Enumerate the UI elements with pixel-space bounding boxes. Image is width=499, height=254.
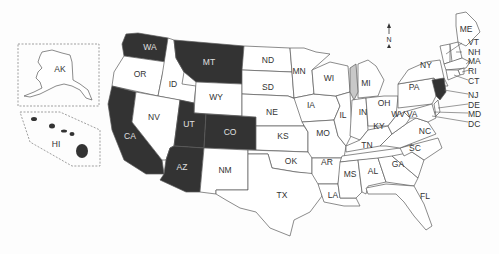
label-RI: RI [468,66,477,76]
compass: N [386,23,391,48]
label-KS: KS [277,131,289,141]
label-OH: OH [378,98,391,108]
label-AZ: AZ [177,162,188,172]
label-DC: DC [468,119,480,129]
callout-labels: VT NH MA RI CT NJ DE MD DC [468,37,481,129]
label-CT: CT [468,76,479,86]
label-SC: SC [409,143,421,153]
label-GA: GA [392,159,405,169]
label-TN: TN [361,140,372,150]
label-CA: CA [124,131,136,141]
label-AR: AR [321,157,333,167]
label-NC: NC [419,126,431,136]
label-MA: MA [468,56,481,66]
label-LA: LA [328,190,339,200]
label-ND: ND [262,55,274,65]
north-label: N [386,36,391,43]
label-MS: MS [344,169,357,179]
label-PA: PA [409,82,420,92]
label-WY: WY [209,92,223,102]
lake-michigan [350,64,358,100]
label-UT: UT [183,119,194,129]
label-NJ: NJ [468,90,478,100]
label-AK: AK [54,64,66,74]
label-IA: IA [307,100,315,110]
label-AL: AL [368,166,379,176]
label-MI: MI [361,78,370,88]
label-IN: IN [359,107,368,117]
label-VA: VA [407,109,418,119]
label-CO: CO [224,127,237,137]
label-WV: WV [391,109,405,119]
label-NV: NV [148,112,160,122]
state-VT[interactable] [440,44,450,64]
label-MT: MT [203,57,215,67]
label-HI: HI [52,139,61,149]
state-IA[interactable] [294,94,340,122]
state-AK[interactable] [24,50,92,100]
label-WI: WI [324,73,334,83]
label-ME: ME [460,24,473,34]
label-WA: WA [143,42,157,52]
label-FL: FL [420,191,430,201]
label-OK: OK [285,156,298,166]
label-SD: SD [262,82,274,92]
label-MO: MO [316,128,330,138]
label-VT: VT [468,37,479,47]
state-CT[interactable] [446,70,460,80]
label-OR: OR [134,69,147,79]
label-IL: IL [339,110,346,120]
label-NY: NY [420,60,432,70]
label-MD: MD [468,109,481,119]
label-KY: KY [373,121,385,131]
label-NM: NM [218,165,231,175]
label-NE: NE [266,107,278,117]
label-MN: MN [292,66,305,76]
label-ID: ID [169,79,178,89]
us-map: AK HI [0,0,499,254]
state-HI[interactable] [31,117,88,158]
label-TX: TX [277,190,288,200]
